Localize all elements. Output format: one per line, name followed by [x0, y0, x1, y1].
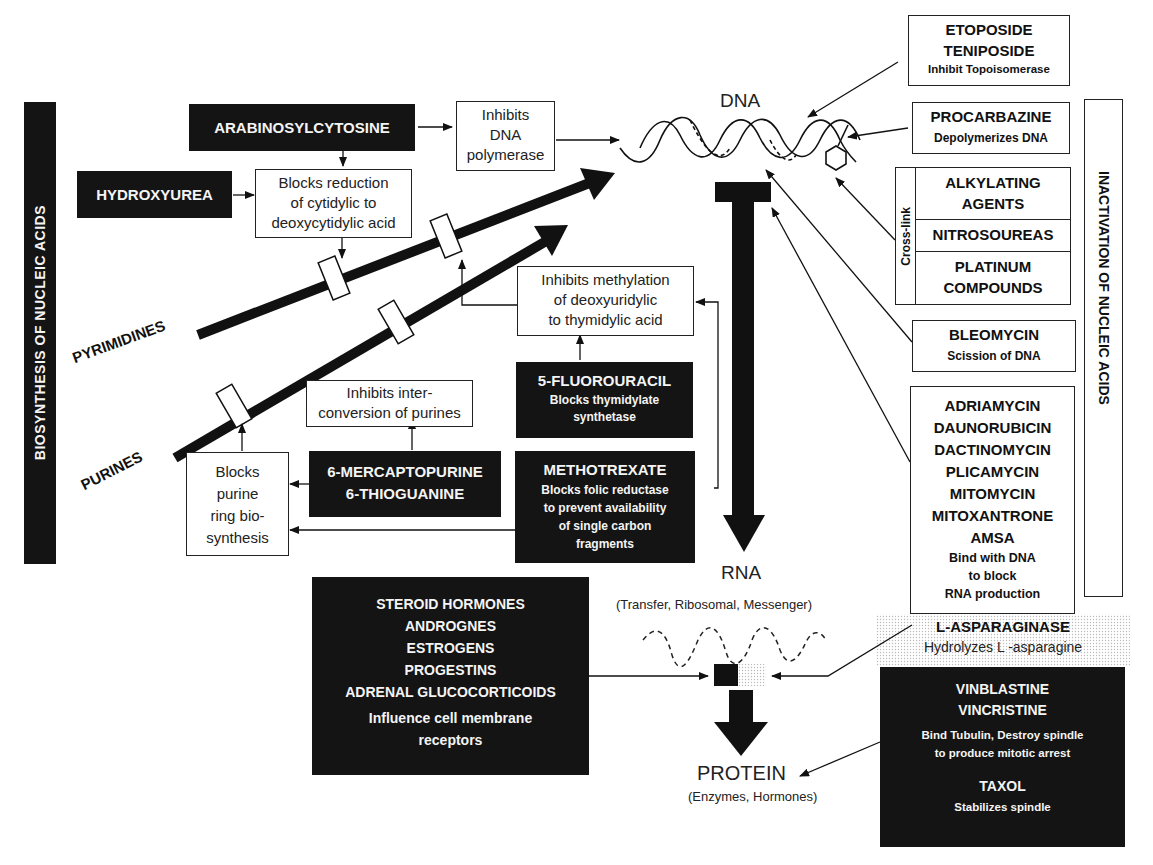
mech-purine-ring: Blocks purine ring bio- synthesis: [186, 452, 289, 556]
text-line: METHOTREXATE: [515, 459, 695, 481]
text-line: ADRIAMYCIN: [911, 395, 1074, 417]
text-line: ADRENAL GLUCOCORTICOIDS: [312, 681, 589, 703]
text-line: Inhibit Topoisomerase: [909, 61, 1069, 78]
text-line: Inhibits inter-: [307, 383, 472, 403]
text-line: of deoxyuridylic: [518, 290, 693, 310]
dna-label: DNA: [720, 90, 760, 112]
drug-l-asparaginase: L-ASPARAGINASE Hydrolyzes L -asparagine: [876, 617, 1130, 657]
text-line: of cytidylic to: [256, 193, 411, 213]
text-line: 6-THIOGUANINE: [309, 483, 501, 505]
crosslink-group: Cross-link ALKYLATING AGENTS NITROSOUREA…: [895, 167, 1071, 305]
mech-dna-polymerase: Inhibits DNA polymerase: [456, 101, 555, 171]
text-line: receptors: [312, 729, 589, 751]
text-line: Inhibits methylation: [518, 270, 693, 290]
text-line: deoxycytidylic acid: [256, 213, 411, 233]
text-line: fragments: [515, 535, 695, 553]
dna-to-rna-arrow: [715, 182, 771, 552]
text-line: Blocks: [187, 461, 288, 483]
drug-arabinosylcytosine: ARABINOSYLCYTOSINE: [189, 104, 415, 151]
mech-cytidylic: Blocks reduction of cytidylic to deoxycy…: [255, 169, 412, 238]
text-line: 6-MERCAPTOPURINE: [309, 461, 501, 483]
drug-mercaptopurine: 6-MERCAPTOPURINE 6-THIOGUANINE: [309, 451, 501, 517]
text-line: Blocks thymidylate: [516, 392, 693, 409]
text-line: DAUNORUBICIN: [911, 417, 1074, 439]
rna-subtitle: (Transfer, Ribosomal, Messenger): [616, 597, 812, 612]
text-line: Inhibits: [457, 105, 554, 125]
text-line: COMPOUNDS: [916, 277, 1070, 298]
text-line: AMSA: [911, 527, 1074, 549]
text-line: Scission of DNA: [913, 346, 1075, 366]
mech-methylation: Inhibits methylation of deoxyuridylic to…: [517, 266, 694, 336]
text-line: L-ASPARAGINASE: [876, 617, 1130, 637]
text-line: 5-FLUOROURACIL: [516, 370, 693, 392]
text-line: of single carbon: [515, 517, 695, 535]
drug-nitrosoureas: NITROSOUREAS: [916, 220, 1070, 252]
drug-antitumor-antibiotics: ADRIAMYCIN DAUNORUBICIN DACTINOMYCIN PLI…: [910, 386, 1075, 614]
text-line: MITOMYCIN: [911, 483, 1074, 505]
text-line: Depolymerizes DNA: [913, 128, 1069, 148]
text-line: Blocks reduction: [256, 173, 411, 193]
text-line: Hydrolyzes L -asparagine: [876, 637, 1130, 657]
drug-platinum-compounds: PLATINUM COMPOUNDS: [916, 252, 1070, 304]
text-line: to thymidylic acid: [518, 310, 693, 330]
text-line: PLATINUM: [916, 256, 1070, 277]
text-line: conversion of purines: [307, 403, 472, 423]
drug-etoposide: ETOPOSIDE TENIPOSIDE Inhibit Topoisomera…: [908, 15, 1070, 86]
text-line: polymerase: [457, 145, 554, 165]
crosslink-label: Cross-link: [899, 207, 913, 266]
text-line: ANDROGNES: [312, 615, 589, 637]
text-line: purine: [187, 483, 288, 505]
text-line: NITROSOUREAS: [933, 226, 1054, 243]
text-line: ETOPOSIDE: [909, 19, 1069, 40]
protein-label: PROTEIN: [697, 762, 786, 785]
dna-helix: [620, 118, 860, 170]
text-line: Bind with DNA: [911, 549, 1074, 567]
text-line: DACTINOMYCIN: [911, 439, 1074, 461]
text-line: ARABINOSYLCYTOSINE: [214, 119, 390, 136]
text-line: VINBLASTINE: [880, 679, 1125, 700]
text-line: STEROID HORMONES: [312, 593, 589, 615]
text-line: HYDROXYUREA: [96, 186, 213, 203]
text-line: synthetase: [516, 409, 693, 426]
drug-hydroxyurea: HYDROXYUREA: [77, 171, 232, 218]
rna-label: RNA: [721, 562, 761, 584]
biosynthesis-label: BIOSYNTHESIS OF NUCLEIC ACIDS: [32, 205, 48, 460]
text-line: DNA: [457, 125, 554, 145]
text-line: TENIPOSIDE: [909, 40, 1069, 61]
drug-steroid-hormones: STEROID HORMONES ANDROGNES ESTROGENS PRO…: [312, 577, 589, 775]
text-line: BLEOMYCIN: [913, 324, 1075, 346]
text-line: AGENTS: [916, 193, 1070, 214]
ribosome-block: [714, 664, 738, 686]
drug-taxol: TAXOL: [880, 776, 1125, 797]
text-line: to produce mitotic arrest: [880, 744, 1125, 762]
drug-bleomycin: BLEOMYCIN Scission of DNA: [912, 320, 1076, 372]
rna-wave: [643, 628, 826, 667]
mech-interconversion: Inhibits inter- conversion of purines: [306, 380, 473, 427]
text-line: ALKYLATING: [916, 172, 1070, 193]
text-line: to prevent availability: [515, 499, 695, 517]
inactivation-frame: INACTIVATION OF NUCLEIC ACIDS: [1084, 99, 1123, 597]
drug-fluorouracil: 5-FLUOROURACIL Blocks thymidylate synthe…: [516, 362, 693, 438]
text-line: to block: [911, 567, 1074, 585]
text-line: VINCRISTINE: [880, 700, 1125, 721]
text-line: PROCARBAZINE: [913, 106, 1069, 128]
rna-to-protein-arrow: [714, 690, 768, 756]
text-line: RNA production: [911, 585, 1074, 603]
drug-methotrexate: METHOTREXATE Blocks folic reductase to p…: [515, 451, 695, 563]
drug-procarbazine: PROCARBAZINE Depolymerizes DNA: [912, 102, 1070, 154]
text-line: ring bio-: [187, 505, 288, 527]
text-line: Blocks folic reductase: [515, 481, 695, 499]
text-line: Bind Tubulin, Destroy spindle: [880, 726, 1125, 744]
text-line: Influence cell membrane: [312, 707, 589, 729]
text-line: PLICAMYCIN: [911, 461, 1074, 483]
inactivation-label: INACTIVATION OF NUCLEIC ACIDS: [1096, 171, 1112, 405]
text-line: synthesis: [187, 527, 288, 549]
text-line: Stabilizes spindle: [880, 797, 1125, 817]
protein-subtitle: (Enzymes, Hormones): [688, 789, 817, 804]
text-line: ESTROGENS: [312, 637, 589, 659]
text-line: MITOXANTRONE: [911, 505, 1074, 527]
biosynthesis-band: BIOSYNTHESIS OF NUCLEIC ACIDS: [24, 102, 56, 564]
drug-vinca-alkaloids: VINBLASTINE VINCRISTINE Bind Tubulin, De…: [880, 667, 1125, 847]
drug-alkylating-agents: ALKYLATING AGENTS: [916, 168, 1070, 220]
text-line: PROGESTINS: [312, 659, 589, 681]
